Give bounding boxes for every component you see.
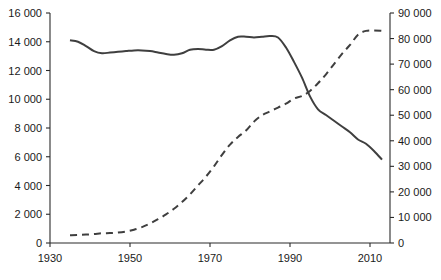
right-axis-tick-label: 10 000: [398, 211, 432, 223]
right-value-axis: 010 00020 00030 00040 00050 00060 00070 …: [390, 7, 432, 249]
x-axis-tick-label: 1990: [278, 252, 302, 264]
data-series-group: [70, 30, 382, 235]
left-axis-tick-label: 0: [36, 237, 42, 249]
left-axis-tick-label: 14 000: [8, 36, 42, 48]
right-axis-tick-label: 80 000: [398, 33, 432, 45]
left-axis-tick-label: 16 000: [8, 7, 42, 19]
left-axis-tick-label: 8 000: [14, 122, 42, 134]
right-axis-tick-label: 50 000: [398, 109, 432, 121]
right-axis-tick-label: 20 000: [398, 186, 432, 198]
right-axis-tick-label: 30 000: [398, 160, 432, 172]
left-axis-tick-label: 2 000: [14, 208, 42, 220]
left-axis-tick-label: 12 000: [8, 65, 42, 77]
chart-figure: 02 0004 0006 0008 00010 00012 00014 0001…: [0, 0, 441, 280]
x-axis-tick-label: 2010: [358, 252, 382, 264]
right-axis-tick-label: 90 000: [398, 7, 432, 19]
x-axis-tick-label: 1970: [198, 252, 222, 264]
x-axis-tick-label: 1930: [38, 252, 62, 264]
series-line-dashed: [70, 30, 382, 235]
x-axis-tick-label: 1950: [118, 252, 142, 264]
year-axis: 19301950197019902010: [38, 243, 390, 264]
right-axis-tick-label: 40 000: [398, 135, 432, 147]
left-axis-tick-label: 6 000: [14, 151, 42, 163]
right-axis-tick-label: 60 000: [398, 84, 432, 96]
left-value-axis: 02 0004 0006 0008 00010 00012 00014 0001…: [8, 7, 50, 249]
chart-canvas: 02 0004 0006 0008 00010 00012 00014 0001…: [0, 0, 441, 280]
left-axis-tick-label: 4 000: [14, 180, 42, 192]
series-line-solid: [70, 36, 382, 160]
right-axis-tick-label: 70 000: [398, 58, 432, 70]
right-axis-tick-label: 0: [398, 237, 404, 249]
left-axis-tick-label: 10 000: [8, 93, 42, 105]
